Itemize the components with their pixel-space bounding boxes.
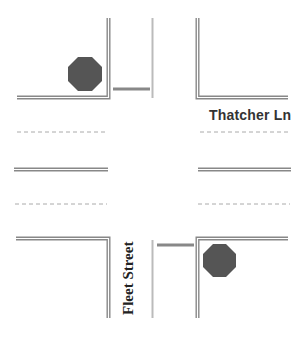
curb-southwest	[16, 239, 109, 319]
stop-sign-icon-northwest	[68, 57, 102, 91]
street-label-fleet: Fleet Street	[120, 242, 137, 315]
intersection-diagram	[0, 0, 304, 338]
stop-sign-icon-southeast	[203, 244, 236, 277]
street-label-thatcher: Thatcher Ln	[209, 107, 291, 123]
curb-northeast	[198, 18, 289, 98]
